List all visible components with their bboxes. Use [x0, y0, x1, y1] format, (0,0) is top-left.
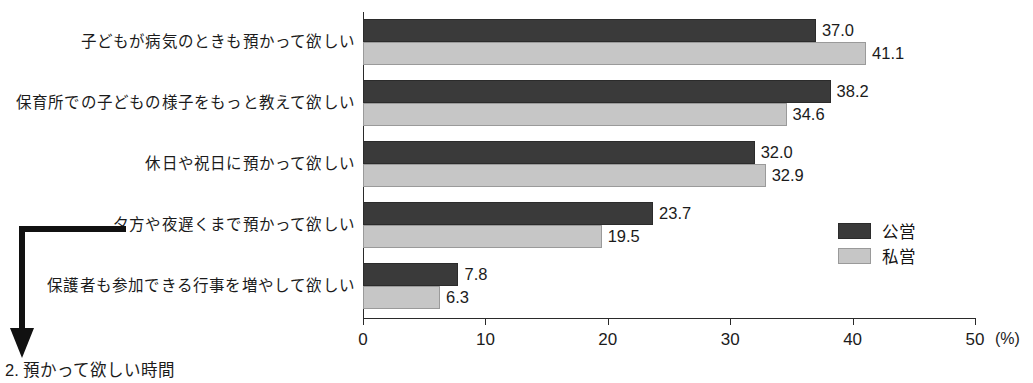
x-axis-unit-label: (%) — [995, 330, 1020, 348]
x-axis-tick-label: 20 — [598, 330, 617, 350]
bar-public — [363, 19, 816, 42]
bar-private — [363, 42, 866, 65]
bar-public — [363, 263, 458, 286]
bar-value-label: 19.5 — [608, 225, 640, 248]
x-axis-tick-label: 30 — [721, 330, 740, 350]
figure-caption: 2. 預かって欲しい時間 — [5, 357, 175, 381]
bar-private — [363, 164, 766, 187]
x-axis-tick — [363, 318, 364, 325]
legend-swatch-private-icon — [838, 248, 871, 264]
bar-private — [363, 225, 602, 248]
x-axis-tick — [975, 318, 976, 325]
bar-value-label: 41.1 — [872, 42, 904, 65]
bar-private — [363, 103, 787, 126]
bar-value-label: 7.8 — [464, 263, 487, 286]
x-axis-tick-label: 40 — [843, 330, 862, 350]
bar-value-label: 38.2 — [837, 80, 869, 103]
x-axis-tick — [853, 318, 854, 325]
category-label: 子どもが病気のときも預かって欲しい — [0, 34, 355, 50]
bar-value-label: 32.9 — [772, 164, 804, 187]
x-axis-tick — [608, 318, 609, 325]
legend: 公営 私営 — [838, 220, 916, 270]
bar-public — [363, 141, 755, 164]
bar-public — [363, 202, 653, 225]
x-axis-tick-label: 50 — [966, 330, 985, 350]
bar-value-label: 34.6 — [793, 103, 825, 126]
bar-private — [363, 286, 440, 309]
legend-label-public: 公営 — [882, 219, 916, 243]
legend-label-private: 私営 — [882, 244, 916, 268]
bar-value-label: 37.0 — [822, 19, 854, 42]
legend-item-private: 私営 — [838, 245, 916, 267]
x-axis-line — [363, 318, 975, 319]
bar-value-label: 6.3 — [446, 286, 469, 309]
x-axis-tick-label: 10 — [476, 330, 495, 350]
category-label: 夕方や夜遅くまで預かって欲しい — [0, 217, 355, 233]
category-label: 保護者も参加できる行事を増やして欲しい — [0, 278, 355, 294]
bar-value-label: 32.0 — [761, 141, 793, 164]
bar-public — [363, 80, 831, 103]
chart-page: 子どもが病気のときも預かって欲しい保育所での子どもの様子をもっと教えて欲しい休日… — [0, 0, 1033, 383]
x-axis-tick — [485, 318, 486, 325]
x-axis-tick — [730, 318, 731, 325]
category-label: 休日や祝日に預かって欲しい — [0, 156, 355, 172]
legend-swatch-public-icon — [838, 223, 871, 239]
plot-area: 01020304050 37.041.138.234.632.032.923.7… — [363, 12, 975, 318]
x-axis-tick-label: 0 — [358, 330, 367, 350]
legend-item-public: 公営 — [838, 220, 916, 242]
bar-value-label: 23.7 — [659, 202, 691, 225]
category-label: 保育所での子どもの様子をもっと教えて欲しい — [0, 95, 355, 111]
